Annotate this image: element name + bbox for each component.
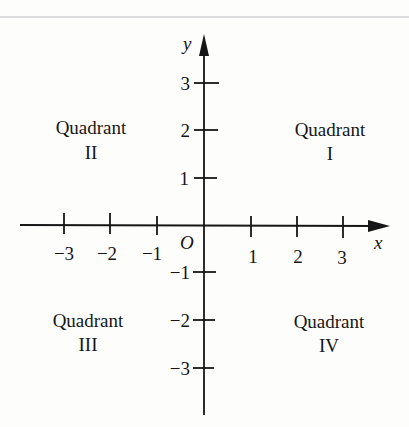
y-axis-arrow-icon	[199, 34, 209, 56]
x-axis-arrow-icon	[368, 220, 390, 232]
y-tick-label: −2	[170, 310, 190, 331]
x-tick-label: 2	[293, 246, 303, 267]
quadrant-i-word: Quadrant	[295, 119, 366, 140]
y-axis-label: y	[181, 33, 192, 54]
y-tick-label: −3	[170, 358, 190, 379]
origin-label: O	[180, 232, 194, 253]
x-axis-label: x	[373, 232, 383, 253]
x-tick-label: 1	[248, 246, 258, 267]
x-tick-label: −1	[142, 243, 162, 264]
quadrant-iii-word: Quadrant	[53, 310, 124, 331]
quadrant-ii-word: Quadrant	[56, 117, 127, 138]
x-tick-label: 3	[337, 247, 347, 268]
coordinate-plane: y x O −3 −2 −1 1 2 3 3 2 1 −1 −2 −3 Quad…	[0, 0, 409, 427]
y-tick-label: 2	[181, 120, 191, 141]
y-tick-label: 3	[181, 73, 191, 94]
x-tick-label: −3	[54, 243, 74, 264]
quadrant-iv-word: Quadrant	[294, 311, 365, 332]
x-axis	[20, 225, 378, 226]
quadrant-ii-numeral: II	[85, 142, 98, 163]
quadrant-iv-numeral: IV	[319, 335, 339, 356]
x-tick-label: −2	[97, 243, 117, 264]
y-tick-label: −1	[170, 262, 190, 283]
y-tick-label: 1	[180, 168, 190, 189]
quadrant-i-numeral: I	[327, 143, 333, 164]
quadrant-iii-numeral: III	[79, 334, 98, 355]
